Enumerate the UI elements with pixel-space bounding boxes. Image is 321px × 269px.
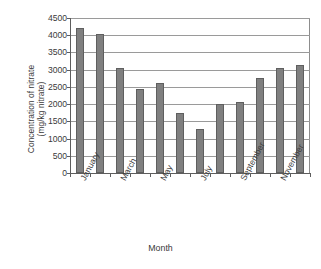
y-axis-tick-label: 3500 <box>38 48 67 57</box>
x-axis-tick <box>190 173 191 177</box>
bar[interactable] <box>236 102 244 173</box>
y-axis-tick-label: 1000 <box>38 134 67 143</box>
bar-series <box>70 18 310 173</box>
y-axis-tick-label: 4000 <box>38 31 67 40</box>
x-axis-tick <box>70 173 71 177</box>
x-axis-title: Month <box>0 243 321 253</box>
y-axis-tick-label: 3000 <box>38 65 67 74</box>
y-axis-line <box>70 18 71 174</box>
bar-slot <box>210 18 230 173</box>
bar-slot <box>270 18 290 173</box>
y-axis-tick-label: 0 <box>38 169 67 178</box>
x-axis-tick <box>110 173 111 177</box>
y-axis-title-line1: Concentration of nitrate <box>26 65 37 153</box>
y-axis-tick-label: 4500 <box>38 14 67 23</box>
y-axis-tick <box>67 156 71 157</box>
bar[interactable] <box>156 83 164 173</box>
bar-slot <box>70 18 90 173</box>
x-axis-tick <box>230 173 231 177</box>
x-axis-tick <box>270 173 271 177</box>
y-axis-tick <box>67 18 71 19</box>
y-axis-tick-label: 2500 <box>38 83 67 92</box>
bar[interactable] <box>276 68 284 173</box>
y-axis-tick-labels: 050010001500200025003000350040004500 <box>38 18 67 173</box>
bar-slot <box>230 18 250 173</box>
y-axis-tick <box>67 139 71 140</box>
bar-slot <box>190 18 210 173</box>
bar[interactable] <box>116 68 124 173</box>
bar-slot <box>130 18 150 173</box>
x-axis-tick <box>150 173 151 177</box>
y-axis-tick <box>67 70 71 71</box>
y-axis-tick <box>67 121 71 122</box>
x-axis-tick <box>310 173 311 177</box>
y-axis-tick <box>67 35 71 36</box>
y-axis-tick <box>67 104 71 105</box>
bar[interactable] <box>176 113 184 173</box>
y-axis-tick-label: 1500 <box>38 117 67 126</box>
bar-slot <box>170 18 190 173</box>
bar-chart: Concentration of nitrate (mg/kg nitrate)… <box>0 0 321 269</box>
x-axis-tick-labels: JanuaryMarchMayJulySeptemberNovember <box>70 178 311 230</box>
y-axis-tick-label: 500 <box>38 151 67 160</box>
bar-slot <box>110 18 130 173</box>
plot-area <box>70 18 310 173</box>
bar[interactable] <box>216 104 224 173</box>
bar[interactable] <box>76 28 84 173</box>
y-axis-tick <box>67 87 71 88</box>
y-axis-tick <box>67 52 71 53</box>
y-axis-tick-label: 2000 <box>38 100 67 109</box>
bar-slot <box>150 18 170 173</box>
